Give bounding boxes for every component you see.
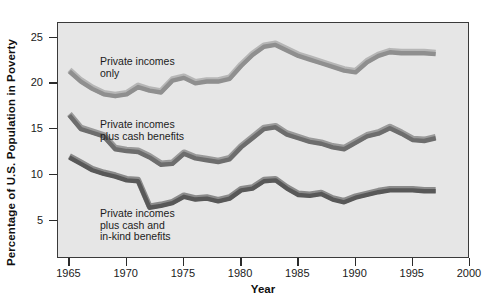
series-label-private-plus-cash-and-inkind: Private incomes plus cash and in-kind be… [100,208,175,243]
x-tick-mark [183,258,184,266]
y-tick-label: 5 [3,214,43,226]
x-tick-label: 1975 [158,267,208,279]
series-line-2 [69,157,435,207]
x-tick-mark [469,258,470,266]
x-tick-label: 1995 [387,267,437,279]
y-tick-label: 20 [3,76,43,88]
x-tick-label: 1990 [330,267,380,279]
x-tick-mark [297,258,298,266]
y-axis-title: Percentage of U.S. Population in Poverty [0,0,22,305]
x-tick-mark [68,258,69,266]
x-tick-label: 2000 [444,267,494,279]
x-tick-mark [240,258,241,266]
poverty-line-chart: Percentage of U.S. Population in Poverty… [0,0,498,305]
x-tick-mark [412,258,413,266]
x-tick-mark [126,258,127,266]
x-tick-label: 1970 [101,267,151,279]
series-label-private-plus-cash: Private incomes plus cash benefits [100,119,184,142]
x-tick-mark [355,258,356,266]
y-tick-label: 15 [3,122,43,134]
x-tick-label: 1965 [43,267,93,279]
x-tick-label: 1985 [272,267,322,279]
x-axis-title: Year [57,283,469,295]
series-label-private-incomes-only: Private incomes only [100,56,175,79]
y-tick-label: 25 [3,31,43,43]
x-tick-label: 1980 [215,267,265,279]
y-tick-label: 10 [3,168,43,180]
